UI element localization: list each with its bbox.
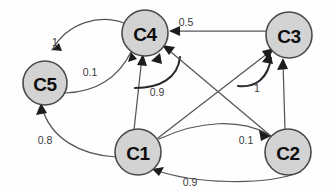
edge-c4-c5-line [52, 19, 124, 50]
edge-c1-c5: 0.8 [36, 103, 116, 157]
edge-c2-c3-straight-line [283, 62, 285, 130]
node-c4-label: C4 [133, 24, 157, 45]
edge-c3-c4-label: 0.5 [179, 16, 194, 28]
graph-diagram: 1 0.1 0.5 0.9 [0, 0, 332, 192]
node-c5[interactable]: C5 [23, 61, 67, 105]
edge-c4-c5-label: 1 [52, 36, 58, 48]
edge-c5-c4-label: 0.1 [83, 66, 98, 78]
edge-c3-c4: 0.5 [169, 16, 266, 36]
node-c3-label: C3 [277, 26, 300, 47]
edge-c1-c5-label: 0.8 [38, 134, 53, 146]
edge-c2-c3-straight [277, 58, 288, 130]
node-c1[interactable]: C1 [115, 129, 161, 175]
edge-c2-c3-straight-arrowhead [277, 58, 288, 70]
edge-c5-c4-line [65, 52, 131, 93]
edge-c4-c5: 1 [52, 19, 124, 51]
node-c5-label: C5 [33, 74, 57, 95]
node-c1-label: C1 [126, 143, 150, 164]
edge-c2-c3-label: 1 [254, 82, 260, 94]
node-c2[interactable]: C2 [265, 129, 311, 175]
edge-c1-c2: 0.1 [159, 124, 271, 146]
node-c2-label: C2 [276, 143, 299, 164]
node-c3[interactable]: C3 [266, 12, 312, 58]
edge-layer: 1 0.1 0.5 0.9 [36, 16, 300, 188]
edge-c5-c4: 0.1 [65, 52, 137, 93]
edge-c1-c4-label: 0.9 [150, 86, 165, 98]
node-c4[interactable]: C4 [122, 10, 168, 56]
edge-c1-c5-line [42, 107, 116, 157]
graph-canvas: 1 0.1 0.5 0.9 [0, 0, 332, 192]
edge-c2-c1-label: 0.9 [183, 176, 198, 188]
edge-c1-c2-label: 0.1 [239, 134, 254, 146]
edge-c1-c4-straight [134, 54, 147, 130]
edge-c1-c4-straight-line [134, 57, 142, 130]
edge-c1-c3-line [158, 50, 272, 138]
